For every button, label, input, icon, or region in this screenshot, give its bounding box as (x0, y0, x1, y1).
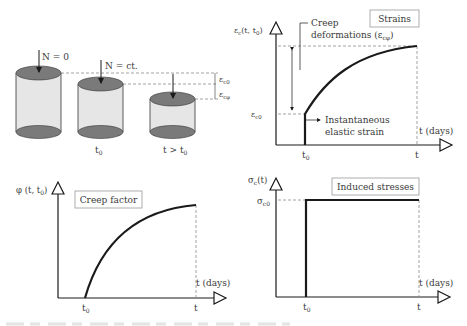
creep-factor-chart: Creep factor φ (t, t0) t (days) t0 t (16, 182, 230, 314)
creep-diagram: N = 0 N = ct. t0 t > t0 εc0 εcφ (0, 0, 467, 326)
cylinder-unloaded: N = 0 (16, 50, 69, 139)
creep-curve (85, 205, 196, 298)
stress-title: Induced stresses (337, 182, 414, 192)
creep-xlabel: t (days) (196, 278, 230, 288)
tick-t: t (417, 302, 421, 312)
stress-ylabel: σc(t) (248, 175, 267, 186)
creep-label-line1: Creep (311, 18, 339, 28)
creep-title: Creep factor (80, 195, 138, 205)
x-axis-arrow-icon (214, 292, 226, 304)
tick-t0: t0 (82, 303, 90, 314)
x-axis-arrow-icon (440, 139, 452, 151)
instant-label-line2: elastic strain (325, 127, 384, 137)
stress-chart: Induced stresses σc(t) σc0 t (days) t0 t (248, 175, 453, 313)
strains-xlabel: t (days) (419, 126, 453, 136)
cylinder-loaded-t0: N = ct. t0 (78, 60, 138, 156)
x-axis-arrow-icon (438, 291, 450, 303)
tick-t: t (415, 150, 419, 160)
stress-step-line (306, 200, 419, 297)
tick-t0: t0 (303, 302, 311, 313)
y-axis-arrow-icon (270, 178, 282, 190)
cylinder-after-creep: t > t0 (150, 74, 195, 156)
label-eps-cphi: εcφ (219, 90, 230, 101)
creep-ylabel: φ (t, t0) (16, 185, 47, 196)
label-eps-c0: εc0 (219, 75, 230, 85)
creep-leader-line (300, 23, 308, 70)
strains-chart: Strains εc(t, t0) Creep deformations (εc… (234, 10, 453, 161)
y-axis-arrow-icon (270, 22, 282, 34)
tick-t0: t0 (302, 150, 310, 161)
caption-t-greater-t0: t > t0 (163, 145, 188, 156)
stress-xlabel: t (days) (419, 278, 453, 288)
strains-title: Strains (378, 14, 411, 24)
instant-label-line1: Instantaneous (325, 115, 390, 125)
strains-ylabel: εc(t, t0) (234, 26, 263, 36)
label-n-constant: N = ct. (105, 61, 138, 71)
label-n-zero: N = 0 (42, 52, 69, 62)
creep-label-line2: deformations (εcφ) (311, 30, 393, 42)
tick-sigma-c0: σc0 (257, 196, 270, 207)
tick-eps-c0: εc0 (251, 110, 262, 120)
y-axis-arrow-icon (52, 182, 64, 194)
caption-t0: t0 (95, 145, 103, 156)
cylinders-panel: N = 0 N = ct. t0 t > t0 εc0 εcφ (16, 50, 230, 156)
tick-t: t (194, 303, 198, 313)
